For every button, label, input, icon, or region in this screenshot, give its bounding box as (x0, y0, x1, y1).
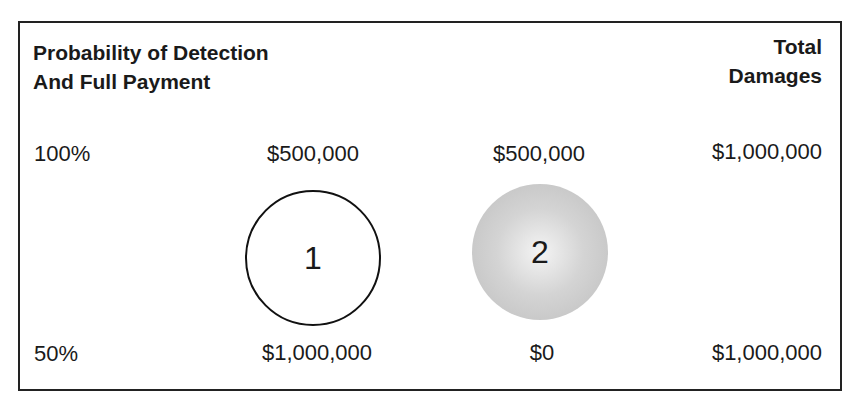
option-1-circle: 1 (245, 190, 381, 326)
probability-50: 50% (34, 341, 78, 367)
probability-100: 100% (34, 141, 90, 167)
option2-100-value: $500,000 (493, 141, 585, 167)
total-damages-header: Total Damages (729, 32, 822, 90)
option1-50-value: $1,000,000 (262, 340, 372, 366)
probability-header-line2: And Full Payment (33, 67, 269, 96)
option-2-circle: 2 (472, 184, 608, 320)
option1-100-value: $500,000 (267, 141, 359, 167)
probability-header-line1: Probability of Detection (33, 38, 269, 67)
total-damages-header-line2: Damages (729, 61, 822, 90)
total-100-value: $1,000,000 (712, 139, 822, 165)
total-damages-header-line1: Total (729, 32, 822, 61)
total-50-value: $1,000,000 (712, 340, 822, 366)
option-1-label: 1 (304, 240, 322, 277)
option2-50-value: $0 (530, 340, 554, 366)
option-2-label: 2 (531, 234, 549, 271)
probability-header: Probability of Detection And Full Paymen… (33, 38, 269, 96)
